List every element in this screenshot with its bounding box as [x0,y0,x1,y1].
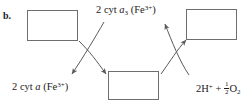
arrow-bottom-right-to-top-center [165,24,189,75]
arrow-layer [0,0,251,103]
reaction-cycle-figure: b. 2 cyt a3 (Fe3+) 2 cyt a (Fe3+) 2H+ + … [0,0,251,103]
arrow-top-center-to-bottom-left [72,22,104,74]
